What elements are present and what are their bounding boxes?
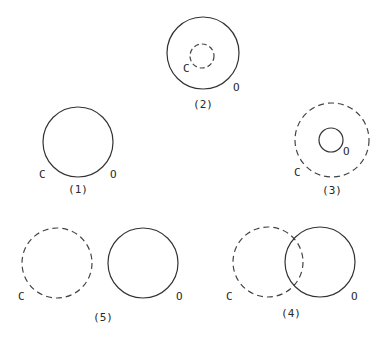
label-c: C (294, 166, 301, 179)
caption: (5) (93, 311, 113, 324)
label-o: O (351, 290, 358, 303)
circle-c (295, 103, 369, 177)
figure-4: C O (4) (226, 227, 358, 320)
figure-2: C O (2) (167, 17, 240, 111)
circle-c (233, 227, 303, 297)
circle-o (43, 107, 113, 177)
label-o: O (110, 168, 117, 181)
circle-c (190, 44, 214, 68)
figure-5: C O (5) (18, 228, 183, 324)
label-c: C (183, 62, 190, 75)
circle-o (167, 17, 239, 89)
diagram-canvas: C O (2) C O (1) O C (3) C O (5) C O (4) (0, 0, 385, 337)
circle-o (108, 228, 178, 298)
circle-o (285, 227, 355, 297)
caption: (3) (322, 184, 342, 197)
label-o: O (176, 290, 183, 303)
figure-1: C O (1) (39, 107, 117, 196)
label-c: C (18, 290, 25, 303)
caption: (4) (281, 307, 301, 320)
figure-3: O C (3) (294, 103, 369, 197)
circle-o (319, 128, 343, 152)
caption: (2) (193, 98, 213, 111)
circle-c (22, 228, 92, 298)
caption: (1) (68, 183, 88, 196)
label-c: C (39, 168, 46, 181)
circle-relations-diagram: C O (2) C O (1) O C (3) C O (5) C O (4) (0, 0, 385, 337)
label-c: C (226, 290, 233, 303)
label-o: O (233, 81, 240, 94)
label-o: O (343, 145, 350, 158)
